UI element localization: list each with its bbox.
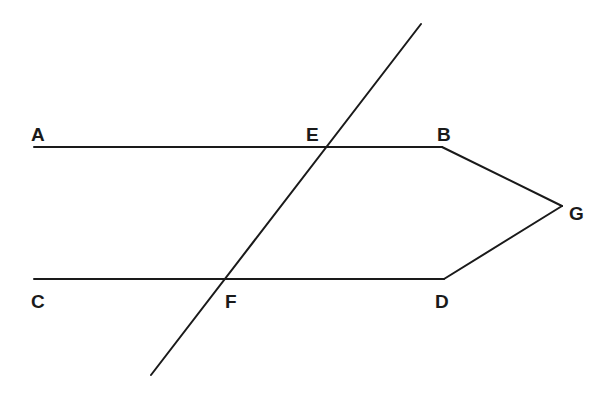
point-label-D: D <box>435 291 449 312</box>
segment-BG <box>442 147 562 206</box>
point-label-E: E <box>306 124 319 145</box>
geometry-diagram: A E B G C F D <box>0 0 614 393</box>
point-label-G: G <box>569 203 584 224</box>
segment-DG <box>444 206 562 279</box>
transversal-EF <box>151 24 421 375</box>
point-label-F: F <box>225 291 237 312</box>
point-label-C: C <box>31 291 45 312</box>
point-label-A: A <box>31 124 45 145</box>
point-label-B: B <box>437 124 451 145</box>
